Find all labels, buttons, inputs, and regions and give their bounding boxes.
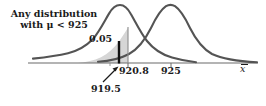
tick-label-critical-value: 919.5 — [91, 84, 121, 95]
alpha-level-label: 0.05 — [89, 34, 112, 45]
distribution-caption-line1: Any distribution — [11, 8, 98, 19]
tick-label-observed-value: 920.8 — [119, 66, 149, 77]
statistics-distribution-figure: Any distribution with μ < 925 0.05 920.8… — [0, 0, 266, 106]
x-axis-label-xbar: x — [240, 64, 248, 75]
critical-value-arrow — [103, 67, 119, 83]
x-axis-label-text: x — [240, 63, 245, 74]
tick-label-hypothesized-mean: 925 — [161, 66, 181, 77]
distribution-caption: Any distribution with μ < 925 — [10, 9, 98, 30]
distribution-caption-line2: with μ < 925 — [10, 20, 98, 31]
